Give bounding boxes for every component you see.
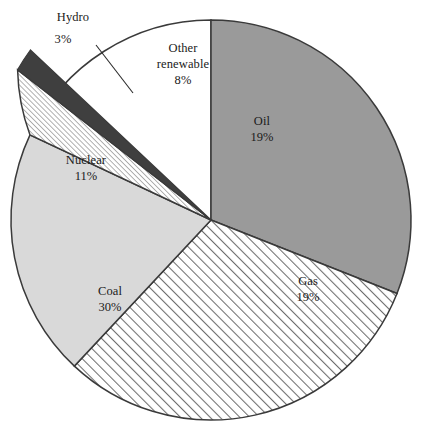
- pie-chart-svg: [0, 0, 422, 439]
- pie-slices: [11, 20, 411, 420]
- pie-chart: Oil 19% Gas 19% Coal 30% Nuclear 11% Oth…: [0, 0, 422, 439]
